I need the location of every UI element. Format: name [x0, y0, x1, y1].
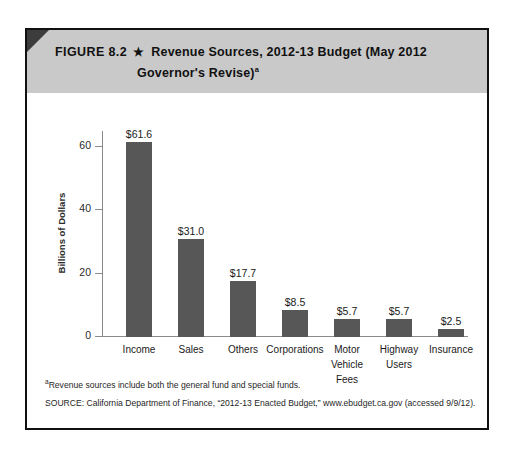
bar-value-label: $5.7 [337, 305, 357, 317]
footnote-text: Revenue sources include both the general… [49, 380, 301, 390]
bar [126, 142, 152, 337]
bar-group: $17.7Others [214, 131, 272, 337]
bar-group: $8.5Corporations [266, 131, 324, 337]
bar [178, 239, 204, 337]
figure-title-text-1: Revenue Sources, 2012-13 Budget (May 201… [151, 45, 427, 59]
bar-value-label: $5.7 [389, 305, 409, 317]
bar-group: $2.5Insurance [422, 131, 480, 337]
y-axis-tick-label: 0 [85, 329, 91, 341]
bar-group: $61.6Income [110, 131, 168, 337]
bar-value-label: $2.5 [441, 315, 461, 327]
bar [438, 329, 464, 337]
plot-area: 0204060 $61.6Income$31.0Sales$17.7Others… [102, 131, 447, 337]
bar [334, 319, 360, 337]
bar [282, 310, 308, 337]
y-axis-label: Billions of Dollars [56, 193, 67, 274]
x-axis-category-label: Insurance [429, 342, 473, 357]
figure-title-line-1: FIGURE 8.2★Revenue Sources, 2012-13 Budg… [55, 43, 473, 61]
bar [386, 319, 412, 337]
bar-group: $5.7HighwayUsers [370, 131, 428, 337]
x-axis-category-label-line: Insurance [429, 342, 473, 357]
x-axis-category-label: Income [123, 342, 156, 357]
y-axis-tick-label: 20 [79, 266, 91, 278]
figure-title-line-2: Governor's Revise)a [55, 61, 473, 82]
bar-series: $61.6Income$31.0Sales$17.7Others$8.5Corp… [102, 131, 447, 337]
figure-title-text-2: Governor's Revise) [137, 66, 255, 80]
source-line: SOURCE: California Department of Finance… [45, 394, 473, 412]
bar-chart: Billions of Dollars 0204060 $61.6Income$… [27, 93, 487, 373]
x-axis-category-label-line: Highway [380, 342, 418, 357]
figure-title: FIGURE 8.2★Revenue Sources, 2012-13 Budg… [55, 43, 473, 82]
bar-value-label: $31.0 [178, 225, 204, 237]
x-axis-category-label-line: Sales [178, 342, 203, 357]
bar-value-label: $61.6 [126, 128, 152, 140]
y-axis-tick: 40 [95, 209, 102, 210]
y-axis-tick: 60 [95, 146, 102, 147]
figure-title-superscript: a [255, 65, 259, 74]
corner-triangle-icon [27, 30, 49, 52]
x-axis-category-label: HighwayUsers [380, 342, 418, 372]
figure-number: FIGURE 8.2 [55, 45, 127, 59]
x-axis-category-label: Others [228, 342, 258, 357]
figure-frame: FIGURE 8.2★Revenue Sources, 2012-13 Budg… [25, 28, 489, 430]
x-axis-category-label-line: Users [380, 357, 418, 372]
star-icon: ★ [127, 43, 151, 61]
figure-notes: aRevenue sources include both the genera… [45, 373, 473, 412]
bar [230, 281, 256, 337]
bar-group: $5.7MotorVehicleFees [318, 131, 376, 337]
x-axis-category-label-line: Corporations [266, 342, 323, 357]
x-axis-category-label-line: Motor [331, 342, 363, 357]
x-axis-category-label: Corporations [266, 342, 323, 357]
bar-value-label: $8.5 [285, 296, 305, 308]
x-axis-category-label: Sales [178, 342, 203, 357]
y-axis-tick: 0 [95, 336, 102, 337]
x-axis-category-label-line: Others [228, 342, 258, 357]
figure-header-band: FIGURE 8.2★Revenue Sources, 2012-13 Budg… [27, 30, 487, 93]
y-axis-tick-label: 60 [79, 139, 91, 151]
y-axis-tick-label: 40 [79, 202, 91, 214]
x-axis-category-label-line: Income [123, 342, 156, 357]
y-axis-tick: 20 [95, 273, 102, 274]
bar-value-label: $17.7 [230, 267, 256, 279]
bar-group: $31.0Sales [162, 131, 220, 337]
x-axis-category-label-line: Vehicle [331, 357, 363, 372]
footnote: aRevenue sources include both the genera… [45, 373, 473, 394]
